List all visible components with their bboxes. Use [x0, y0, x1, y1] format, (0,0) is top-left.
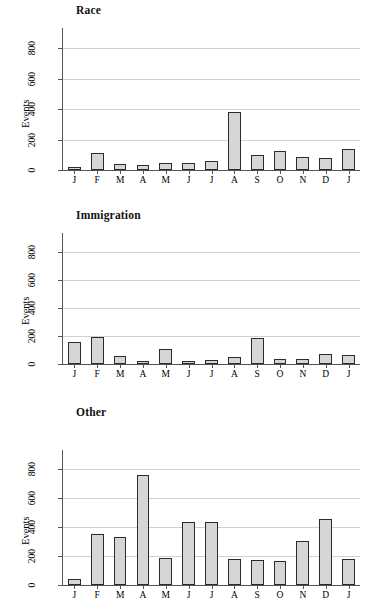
x-axis-tick-label: A	[223, 590, 246, 600]
bar	[114, 537, 127, 585]
y-axis-tick-label: 800	[26, 239, 38, 265]
x-axis-tick-label: D	[314, 590, 337, 600]
x-axis-tick-label: N	[291, 369, 314, 379]
x-axis-tick	[257, 171, 258, 174]
grid-line	[63, 79, 360, 80]
x-axis-tick-label: J	[177, 175, 200, 185]
bar	[205, 522, 218, 585]
x-axis-tick	[189, 586, 190, 589]
bar	[137, 361, 150, 365]
y-axis-line	[62, 233, 63, 364]
x-axis-tick-label: J	[63, 175, 86, 185]
x-axis-tick-label: O	[269, 175, 292, 185]
bar	[159, 349, 172, 364]
x-axis-tick	[326, 171, 327, 174]
bar	[91, 534, 104, 585]
plot-area: 0200400600800JFMAMJJASONDJ	[63, 455, 360, 585]
grid-line	[63, 252, 360, 253]
bar	[319, 354, 332, 365]
x-axis-tick	[97, 586, 98, 589]
grid-line	[63, 48, 360, 49]
x-axis-tick	[120, 171, 121, 174]
grid-line	[63, 469, 360, 470]
bar	[296, 359, 309, 364]
x-axis-tick-label: J	[63, 590, 86, 600]
bar	[296, 157, 309, 170]
x-axis-tick-label: M	[109, 590, 132, 600]
x-axis-tick-label: A	[132, 175, 155, 185]
x-axis-tick	[257, 365, 258, 368]
x-axis-tick-label: S	[246, 369, 269, 379]
x-axis-tick-label: M	[154, 590, 177, 600]
bar	[182, 163, 195, 170]
plot-area: 0200400600800JFMAMJJASONDJ	[63, 238, 360, 364]
x-axis-tick-label: A	[132, 590, 155, 600]
x-axis-tick	[280, 586, 281, 589]
x-axis-tick-label: M	[109, 175, 132, 185]
x-axis-tick	[280, 365, 281, 368]
bar	[251, 560, 264, 585]
x-axis-tick	[303, 586, 304, 589]
x-axis-tick-label: S	[246, 590, 269, 600]
y-axis-tick-label: 400	[26, 295, 38, 321]
bar	[137, 475, 150, 585]
x-axis-tick	[97, 365, 98, 368]
x-axis-tick	[143, 171, 144, 174]
bar	[228, 357, 241, 364]
bar	[274, 151, 287, 170]
y-axis-tick-label: 600	[26, 485, 38, 511]
y-axis-tick-label: 0	[26, 572, 38, 598]
bar	[274, 359, 287, 364]
x-axis-tick	[143, 365, 144, 368]
x-axis-tick	[97, 171, 98, 174]
x-axis-tick-label: J	[200, 175, 223, 185]
x-axis-tick-label: J	[337, 175, 360, 185]
bar	[182, 522, 195, 585]
bar	[342, 149, 355, 170]
bar	[342, 559, 355, 585]
bar	[274, 561, 287, 585]
x-axis-tick	[212, 586, 213, 589]
grid-line	[63, 336, 360, 337]
chart-title: Race	[76, 4, 101, 16]
grid-line	[63, 280, 360, 281]
x-axis-tick-label: F	[86, 590, 109, 600]
chart-title: Other	[76, 406, 106, 418]
x-axis-tick	[166, 365, 167, 368]
grid-line	[63, 140, 360, 141]
y-axis-tick-label: 400	[26, 96, 38, 122]
bar	[251, 155, 264, 170]
bar	[251, 338, 264, 364]
bar	[114, 164, 127, 170]
plot-area: 0200400600800JFMAMJJASONDJ	[63, 33, 360, 170]
x-axis-tick	[257, 586, 258, 589]
y-axis-tick-label: 400	[26, 514, 38, 540]
chart-title: Immigration	[76, 209, 141, 221]
x-axis-tick	[349, 586, 350, 589]
bar	[91, 153, 104, 170]
x-axis-tick-label: N	[291, 590, 314, 600]
y-axis-line	[62, 450, 63, 585]
x-axis-tick	[326, 365, 327, 368]
x-axis-tick	[74, 171, 75, 174]
x-axis-tick-label: D	[314, 175, 337, 185]
x-axis-tick-label: J	[337, 369, 360, 379]
y-axis-tick-label: 800	[26, 35, 38, 61]
x-axis-tick	[189, 365, 190, 368]
x-axis-tick	[212, 365, 213, 368]
x-axis-tick-label: J	[337, 590, 360, 600]
bar	[342, 355, 355, 364]
grid-line	[63, 498, 360, 499]
x-axis-tick-label: J	[177, 369, 200, 379]
x-axis-tick-label: M	[154, 175, 177, 185]
x-axis-tick-label: S	[246, 175, 269, 185]
bar	[91, 337, 104, 364]
x-axis-tick	[166, 586, 167, 589]
x-axis-tick	[234, 171, 235, 174]
bar	[114, 356, 127, 364]
x-axis-tick-label: O	[269, 369, 292, 379]
bar	[159, 163, 172, 170]
x-axis-tick	[280, 171, 281, 174]
x-axis-tick	[234, 365, 235, 368]
y-axis-tick-label: 200	[26, 127, 38, 153]
